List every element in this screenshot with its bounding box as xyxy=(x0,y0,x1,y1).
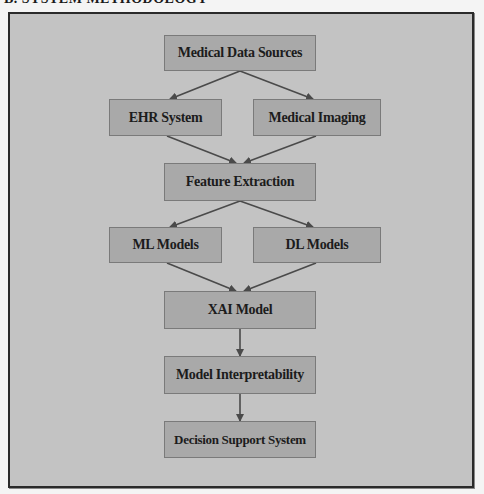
node-label: Decision Support System xyxy=(174,432,306,448)
node-medical-imaging: Medical Imaging xyxy=(253,99,381,136)
node-ml-models: ML Models xyxy=(109,227,222,263)
node-model-interpretability: Model Interpretability xyxy=(164,356,316,394)
edge-imaging-features xyxy=(244,136,316,163)
node-decision-support-system: Decision Support System xyxy=(164,421,316,458)
edge-sources-imaging xyxy=(240,71,313,99)
node-medical-data-sources: Medical Data Sources xyxy=(164,35,316,71)
node-label: Model Interpretability xyxy=(176,367,304,383)
edge-sources-ehr xyxy=(170,71,240,99)
edge-features-ml xyxy=(170,201,240,227)
node-dl-models: DL Models xyxy=(253,227,381,263)
node-label: DL Models xyxy=(285,237,348,253)
edge-features-dl xyxy=(240,201,313,227)
node-label: Medical Data Sources xyxy=(178,45,302,61)
node-label: EHR System xyxy=(129,110,203,126)
edge-ehr-features xyxy=(167,136,236,163)
node-feature-extraction: Feature Extraction xyxy=(164,163,316,201)
node-label: XAI Model xyxy=(208,302,273,318)
flow-arrows xyxy=(0,0,484,494)
node-label: ML Models xyxy=(132,237,198,253)
edge-ml-xai xyxy=(167,263,236,291)
node-ehr-system: EHR System xyxy=(109,99,222,136)
node-label: Medical Imaging xyxy=(269,110,366,126)
node-xai-model: XAI Model xyxy=(164,291,316,329)
node-label: Feature Extraction xyxy=(186,174,294,190)
edge-dl-xai xyxy=(244,263,316,291)
